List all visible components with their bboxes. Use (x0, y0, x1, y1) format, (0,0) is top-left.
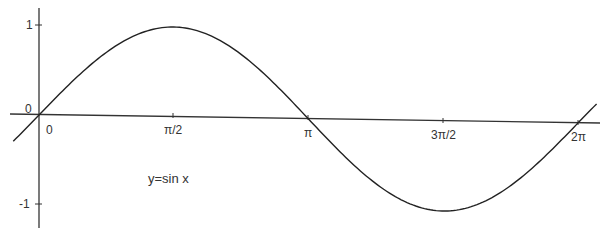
x-label-three-half-pi: 3π/2 (431, 129, 456, 141)
x-label-pi: π (304, 127, 312, 139)
y-label-1: 1 (26, 19, 33, 31)
function-label: y=sin x (148, 172, 189, 185)
x-label-0: 0 (46, 124, 53, 136)
x-label-two-pi: 2π (571, 131, 586, 143)
y-label-minus-1: -1 (19, 198, 30, 210)
x-label-half-pi: π/2 (164, 124, 182, 136)
sine-chart (0, 0, 605, 237)
origin-label: 0 (25, 103, 32, 115)
